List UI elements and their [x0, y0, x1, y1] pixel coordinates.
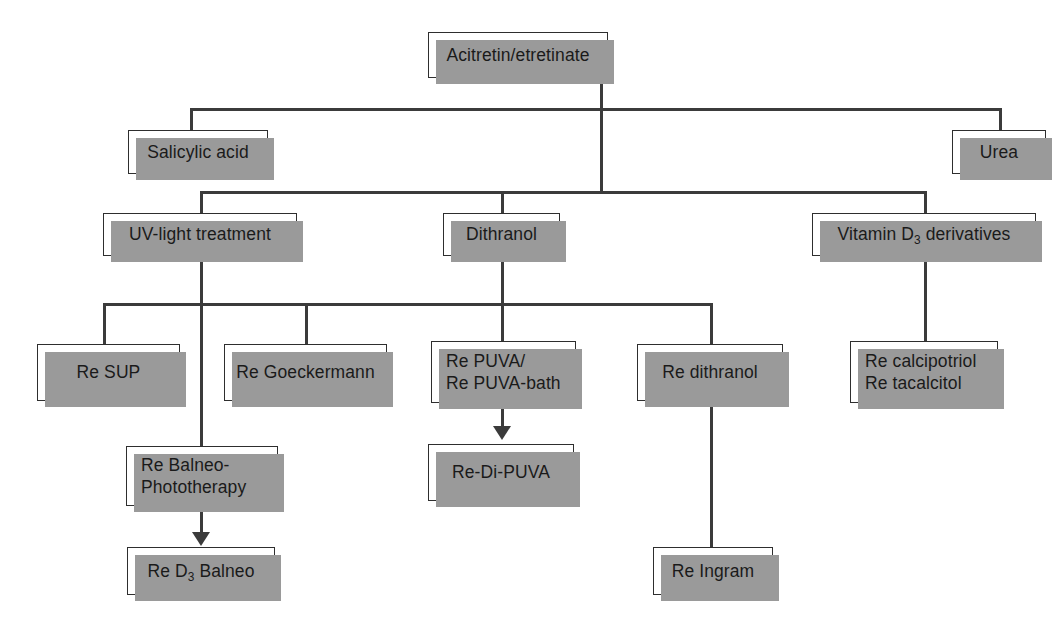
connector-drop-redithranol [710, 303, 713, 344]
node-label-text: Vitamin D [838, 224, 914, 244]
node-label: Re Balneo- Phototherapy [127, 454, 277, 498]
node-re-calcipotriol[interactable]: Re calcipotriol Re tacalcitol [850, 341, 998, 403]
node-re-di-puva[interactable]: Re-Di-PUVA [428, 444, 574, 501]
node-re-goeckermann[interactable]: Re Goeckermann [224, 344, 387, 401]
connector-drop-uvlight [200, 191, 203, 213]
node-label: Re Goeckermann [225, 361, 386, 383]
connector-uvlight-trunk [200, 256, 203, 451]
node-label: Dithranol [444, 223, 559, 245]
diagram-canvas: Acitretin/etretinate Salicylic acid Urea… [0, 0, 1063, 620]
node-label: Salicylic acid [129, 141, 267, 163]
node-label-suffix: derivatives [921, 224, 1011, 244]
connector-redithranol-to-reingram [710, 403, 713, 547]
connector-acitretin-trunk [600, 78, 603, 192]
node-re-ingram[interactable]: Re Ingram [653, 547, 773, 595]
node-re-dithranol[interactable]: Re dithranol [637, 344, 783, 401]
connector-dithranol-trunk [501, 256, 504, 344]
node-urea[interactable]: Urea [952, 130, 1046, 174]
node-acitretin[interactable]: Acitretin/etretinate [428, 32, 608, 78]
node-label: Urea [953, 141, 1045, 163]
node-label: Vitamin D3 derivatives [813, 223, 1035, 245]
connector-drop-vitd3 [924, 191, 927, 213]
node-vitamin-d3-derivatives[interactable]: Vitamin D3 derivatives [812, 213, 1036, 256]
node-uv-light-treatment[interactable]: UV-light treatment [103, 213, 297, 256]
node-salicylic-acid[interactable]: Salicylic acid [128, 130, 268, 174]
node-label-subscript: 3 [914, 233, 921, 247]
node-label-suffix: Balneo [194, 561, 254, 581]
node-re-sup[interactable]: Re SUP [37, 344, 180, 401]
connector-drop-salicylic [190, 108, 193, 130]
arrowhead-red3balneo [192, 532, 210, 546]
node-label-text: Re D [147, 561, 187, 581]
arrowhead-redipuva [493, 426, 511, 440]
node-label: UV-light treatment [104, 223, 296, 245]
connector-drop-urea [999, 108, 1002, 130]
connector-bus-row3 [200, 191, 927, 194]
node-dithranol[interactable]: Dithranol [443, 213, 560, 256]
node-label: Acitretin/etretinate [429, 44, 607, 66]
connector-bus-row4-left [103, 303, 713, 306]
node-re-puva[interactable]: Re PUVA/ Re PUVA-bath [431, 341, 576, 403]
node-label: Re SUP [38, 361, 179, 383]
node-label: Re Ingram [654, 560, 772, 582]
node-re-d3-balneo[interactable]: Re D3 Balneo [127, 547, 275, 595]
node-label: Re D3 Balneo [128, 560, 274, 582]
node-label-subscript: 3 [188, 570, 195, 584]
connector-drop-resup [103, 303, 106, 344]
connector-bus-row2 [190, 108, 1002, 111]
connector-vitd3-trunk [924, 256, 927, 344]
node-label: Re PUVA/ Re PUVA-bath [432, 350, 575, 394]
node-label: Re dithranol [638, 361, 782, 383]
connector-drop-dithranol [501, 191, 504, 213]
node-re-balneo-phototherapy[interactable]: Re Balneo- Phototherapy [126, 446, 278, 506]
connector-drop-regoeckermann [305, 303, 308, 344]
node-label: Re calcipotriol Re tacalcitol [851, 350, 997, 394]
node-label: Re-Di-PUVA [429, 461, 573, 483]
